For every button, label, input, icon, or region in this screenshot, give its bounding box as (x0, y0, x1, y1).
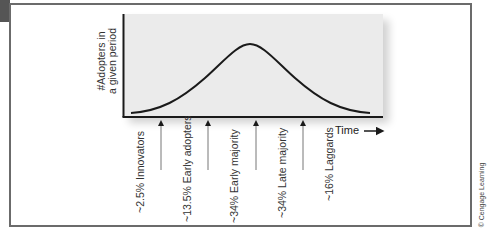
adoption-bell-curve (131, 44, 370, 113)
copyright-text: © Cengage Learning (478, 163, 485, 228)
x-axis-label: Time (335, 124, 359, 136)
diagram-graphics (0, 0, 487, 245)
time-label-text: Time (335, 124, 359, 136)
